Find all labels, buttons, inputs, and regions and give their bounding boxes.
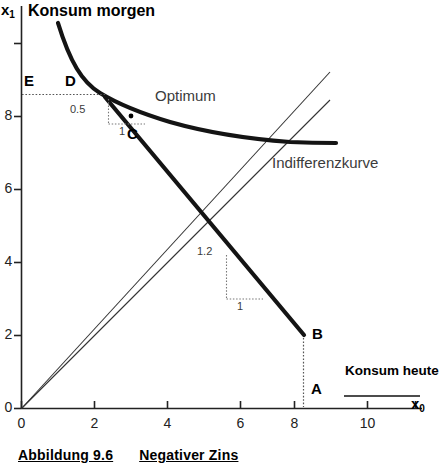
x-tick-label-6: 6	[232, 416, 249, 430]
point-label-e: E	[24, 73, 34, 88]
slope-label-rise-lower: 1.2	[197, 246, 212, 257]
point-label-a: A	[311, 381, 322, 396]
x-tick-label-4: 4	[159, 416, 176, 430]
slope-label-rise-upper: 0.5	[70, 104, 85, 115]
x-tick-label-8: 8	[286, 416, 303, 430]
y-tick-label-6: 6	[0, 181, 17, 195]
annotation-indifferenzkurve: Indifferenzkurve	[272, 155, 378, 170]
y-axis-title: Konsum morgen	[28, 3, 155, 19]
figure-caption-title: Negativer Zins	[139, 447, 238, 463]
y-axis-symbol: x1	[1, 2, 15, 17]
figure-caption: Abbildung 9.6Negativer Zins	[18, 447, 238, 463]
x-axis-title-text: Konsum heute	[345, 363, 439, 378]
figure-caption-number: Abbildung 9.6	[18, 447, 113, 463]
point-label-c: C	[127, 126, 138, 141]
optimum-tangency-dot	[129, 114, 134, 119]
point-label-d: D	[65, 73, 76, 88]
slope-label-run-lower: 1	[237, 301, 243, 312]
x-tick-label-2: 2	[86, 416, 103, 430]
point-label-b: B	[312, 326, 323, 341]
y-tick-label-0: 0	[0, 400, 17, 414]
forty-five-degree-line	[22, 100, 330, 408]
slope-label-run-upper: 1	[119, 126, 125, 137]
y-tick-label-8: 8	[0, 108, 17, 122]
indifference-curve	[58, 23, 336, 143]
x-axis-title: Konsum heute	[345, 363, 421, 379]
x-axis-ticks	[22, 401, 416, 409]
x-tick-label-10: 10	[356, 416, 379, 430]
x-tick-label-0: 0	[13, 416, 30, 430]
y-tick-label-4: 4	[0, 254, 17, 268]
y-axis-ticks	[14, 44, 22, 409]
y-tick-label-2: 2	[0, 327, 17, 341]
annotation-optimum: Optimum	[155, 88, 216, 103]
x-axis-symbol: x0	[411, 396, 425, 411]
